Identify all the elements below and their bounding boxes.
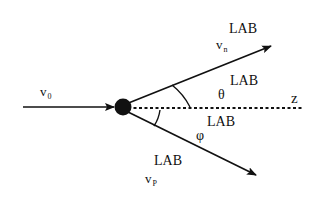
theta-superscript-label: LAB: [230, 74, 258, 88]
phi-angle-arc: [154, 110, 160, 126]
theta-angle-label: θ: [218, 88, 225, 102]
neutron-superscript-label: LAB: [229, 22, 257, 36]
z-axis-label: z: [291, 91, 298, 106]
phi-superscript-label: LAB: [207, 115, 235, 129]
theta-angle-arc: [172, 85, 190, 107]
collision-diagram: v0 LAB vn LAB θ z LAB φ LAB vP: [0, 0, 309, 197]
proton-velocity-label: vP: [145, 172, 157, 188]
phi-angle-label: φ: [196, 129, 204, 143]
neutron-velocity-label: vn: [216, 38, 228, 54]
proton-velocity-arrow: [126, 111, 256, 175]
incoming-velocity-label: v0: [40, 85, 52, 101]
proton-superscript-label: LAB: [154, 154, 182, 168]
target-particle-dot: [115, 99, 132, 116]
